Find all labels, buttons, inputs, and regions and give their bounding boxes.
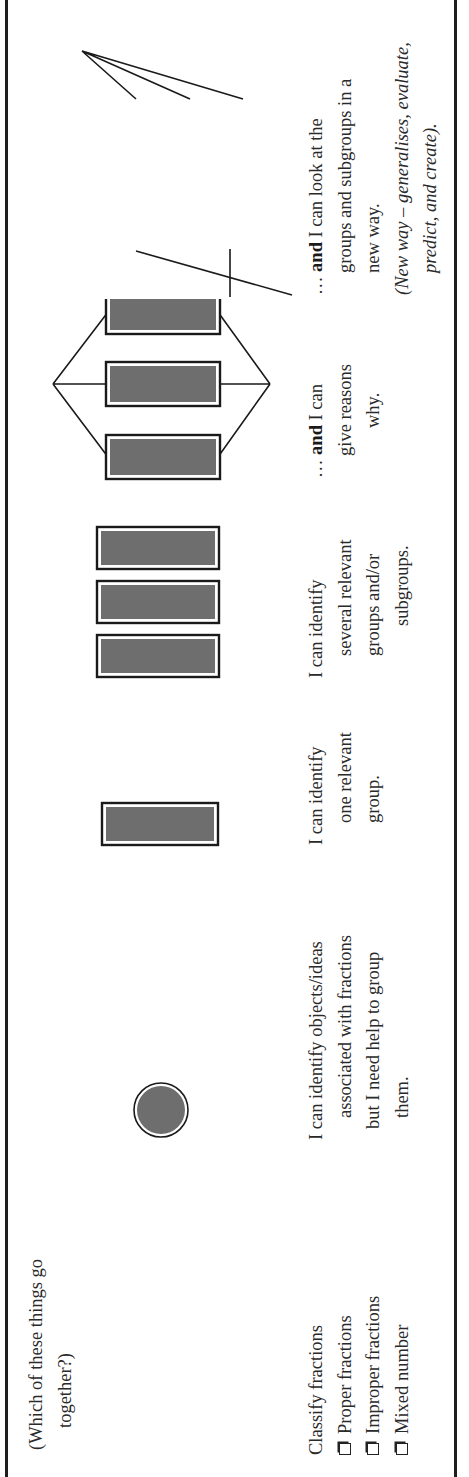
dot-icon: [130, 1079, 192, 1141]
question-line-1: (Which of these things go: [22, 1259, 51, 1450]
level-2-descriptor: I can identify one relevant group.: [302, 732, 388, 845]
task-block: Classify fractions Proper fractions Impr…: [302, 1296, 416, 1455]
table-bottom-rule: [454, 0, 457, 1477]
three-group-rectangles-icon: [94, 517, 226, 679]
table-top-rule: [5, 0, 8, 1477]
checklist-item-improper[interactable]: Improper fractions: [359, 1296, 388, 1455]
checklist-label: Improper fractions: [359, 1296, 388, 1434]
checklist-label: Mixed number: [388, 1325, 417, 1434]
level-5-note-line-1: (New way – generalises, evaluate,: [388, 42, 417, 295]
checklist-item-proper[interactable]: Proper fractions: [331, 1296, 360, 1455]
question-text: (Which of these things go together?): [22, 1259, 79, 1450]
rotated-page: (Which of these things go together?) Cla…: [0, 0, 469, 1477]
checklist-label: Proper fractions: [331, 1315, 360, 1434]
level-1-descriptor: I can identify objects/ideas associated …: [302, 935, 416, 1140]
level-3-descriptor: I can identify several relevant groups a…: [302, 539, 416, 678]
checklist-item-mixed[interactable]: Mixed number: [388, 1296, 417, 1455]
checkbox-icon[interactable]: [367, 1443, 379, 1455]
linked-groups-icon: [50, 277, 280, 487]
question-line-2: together?): [51, 1259, 80, 1450]
single-group-rectangle-icon: [100, 797, 222, 847]
task-title: Classify fractions: [302, 1296, 331, 1455]
level-4-descriptor: … and I can give reasons why.: [302, 364, 388, 478]
checkbox-icon[interactable]: [339, 1443, 351, 1455]
checkbox-icon[interactable]: [396, 1443, 408, 1455]
level-5-note-line-2: predict, and create).: [416, 42, 445, 295]
level-5-descriptor: … and I can look at the groups and subgr…: [302, 42, 445, 295]
level-5-graphic: [12, 0, 310, 297]
